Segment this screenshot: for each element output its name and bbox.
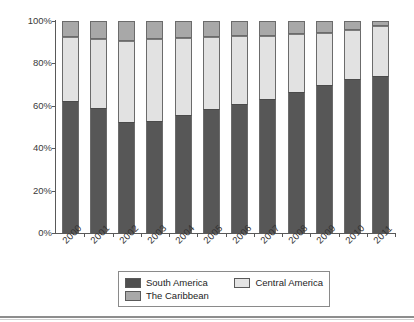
- bar-segment-the-caribbean: [344, 21, 361, 29]
- x-axis-tick-mark: [84, 233, 85, 237]
- y-axis-tick-label: 100%: [0, 15, 52, 26]
- legend-item-south-america[interactable]: South America: [125, 277, 234, 288]
- bar-segment-south-america: [90, 108, 107, 233]
- y-axis-tick-label: 80%: [0, 57, 52, 68]
- bar-segment-south-america: [175, 115, 192, 233]
- bar-segment-central-america: [231, 36, 248, 104]
- bar-segment-south-america: [203, 109, 220, 233]
- bar-segment-central-america: [146, 39, 163, 121]
- legend-item-the-caribbean[interactable]: The Caribbean: [125, 290, 241, 301]
- bar-segment-central-america: [259, 36, 276, 100]
- plot-area: [56, 21, 395, 233]
- legend-row: South America Central America: [125, 276, 323, 289]
- bar-segment-central-america: [90, 39, 107, 108]
- bar-2008[interactable]: [288, 21, 305, 233]
- bar-segment-central-america: [344, 30, 361, 80]
- bar-2001[interactable]: [90, 21, 107, 233]
- bar-2011[interactable]: [372, 21, 389, 233]
- bar-segment-the-caribbean: [203, 21, 220, 37]
- bar-2010[interactable]: [344, 21, 361, 233]
- bar-2003[interactable]: [146, 21, 163, 233]
- bar-segment-south-america: [316, 85, 333, 233]
- bar-segment-the-caribbean: [288, 21, 305, 34]
- x-axis-tick-mark: [395, 233, 396, 237]
- bar-2004[interactable]: [175, 21, 192, 233]
- bar-segment-central-america: [118, 41, 135, 122]
- x-axis-tick-mark: [141, 233, 142, 237]
- chart-legend: South America Central America The Caribb…: [118, 271, 330, 307]
- bar-2002[interactable]: [118, 21, 135, 233]
- bar-2007[interactable]: [259, 21, 276, 233]
- bar-segment-south-america: [288, 92, 305, 233]
- bar-segment-the-caribbean: [62, 21, 79, 37]
- bar-segment-the-caribbean: [90, 21, 107, 39]
- x-axis-tick-mark: [197, 233, 198, 237]
- bar-segment-south-america: [62, 101, 79, 234]
- south-america-swatch: [125, 278, 141, 288]
- central-america-swatch: [234, 278, 250, 288]
- bar-2006[interactable]: [231, 21, 248, 233]
- y-axis-tick-label: 20%: [0, 185, 52, 196]
- bar-segment-central-america: [175, 38, 192, 115]
- bar-segment-the-caribbean: [231, 21, 248, 36]
- legend-label-central-america: Central America: [255, 277, 323, 288]
- bar-segment-south-america: [372, 76, 389, 233]
- bar-2005[interactable]: [203, 21, 220, 233]
- x-axis-tick-mark: [367, 233, 368, 237]
- stacked-bar-chart: 0%20%40%60%80%100% 200020012002200320042…: [0, 0, 414, 322]
- x-axis-tick-mark: [254, 233, 255, 237]
- bar-segment-south-america: [118, 122, 135, 233]
- bar-2009[interactable]: [316, 21, 333, 233]
- bar-2000[interactable]: [62, 21, 79, 233]
- y-axis-tick-label: 0%: [0, 227, 52, 238]
- y-axis-tick-label: 60%: [0, 100, 52, 111]
- bar-segment-south-america: [259, 99, 276, 233]
- bar-segment-central-america: [316, 33, 333, 85]
- bar-segment-central-america: [203, 37, 220, 109]
- y-axis-tick-label: 40%: [0, 142, 52, 153]
- bar-segment-south-america: [344, 79, 361, 233]
- page-rule-secondary: [0, 319, 414, 320]
- x-axis-tick-mark: [113, 233, 114, 237]
- bar-segment-central-america: [372, 26, 389, 76]
- bar-segment-the-caribbean: [146, 21, 163, 39]
- bar-segment-south-america: [231, 104, 248, 233]
- y-axis-tick-mark: [52, 233, 56, 234]
- the-caribbean-swatch: [125, 291, 141, 301]
- page-rule: [0, 316, 414, 318]
- x-axis-tick-mark: [169, 233, 170, 237]
- x-axis-tick-mark: [226, 233, 227, 237]
- bar-segment-central-america: [62, 37, 79, 101]
- legend-row: The Caribbean: [125, 289, 323, 302]
- x-axis-tick-mark: [282, 233, 283, 237]
- bar-segment-the-caribbean: [175, 21, 192, 38]
- x-axis-tick-mark: [310, 233, 311, 237]
- legend-item-central-america[interactable]: Central America: [234, 277, 323, 288]
- bar-segment-the-caribbean: [259, 21, 276, 36]
- bar-segment-south-america: [146, 121, 163, 233]
- bar-segment-the-caribbean: [118, 21, 135, 41]
- bar-segment-the-caribbean: [316, 21, 333, 33]
- legend-label-south-america: South America: [146, 277, 208, 288]
- x-axis-tick-mark: [339, 233, 340, 237]
- legend-label-the-caribbean: The Caribbean: [146, 290, 209, 301]
- bar-segment-central-america: [288, 34, 305, 92]
